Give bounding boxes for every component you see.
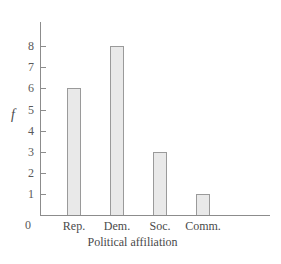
y-axis-line (40, 22, 41, 216)
y-axis-tick (41, 173, 46, 174)
bar-chart: f 12345678 0 Rep.Dem.Soc.Comm. Political… (0, 0, 281, 264)
bar-rep (67, 88, 81, 215)
y-tick-label: 2 (16, 167, 34, 179)
y-axis-tick (41, 131, 46, 132)
y-tick-label: 4 (16, 125, 34, 137)
y-tick-label: 1 (16, 188, 34, 200)
x-tick-label: Comm. (173, 220, 233, 233)
y-axis-title: f (11, 107, 15, 123)
y-tick-label-zero: 0 (25, 219, 31, 232)
y-tick-label: 7 (16, 61, 34, 73)
x-axis-title-text: Political affiliation (87, 235, 177, 249)
bar-dem (110, 46, 124, 215)
x-axis-line (40, 215, 270, 216)
y-tick-label: 6 (16, 82, 34, 94)
x-axis-title: Political affiliation (0, 236, 281, 249)
y-tick-label: 5 (16, 104, 34, 116)
y-axis-tick (41, 194, 46, 195)
y-tick-label: 8 (16, 40, 34, 52)
y-axis-tick (41, 67, 46, 68)
y-axis-tick (41, 152, 46, 153)
y-axis-tick (41, 88, 46, 89)
bar-soc (153, 152, 167, 215)
y-axis-tick (41, 110, 46, 111)
y-tick-label: 3 (16, 146, 34, 158)
bar-comm (196, 194, 210, 215)
y-axis-tick (41, 46, 46, 47)
